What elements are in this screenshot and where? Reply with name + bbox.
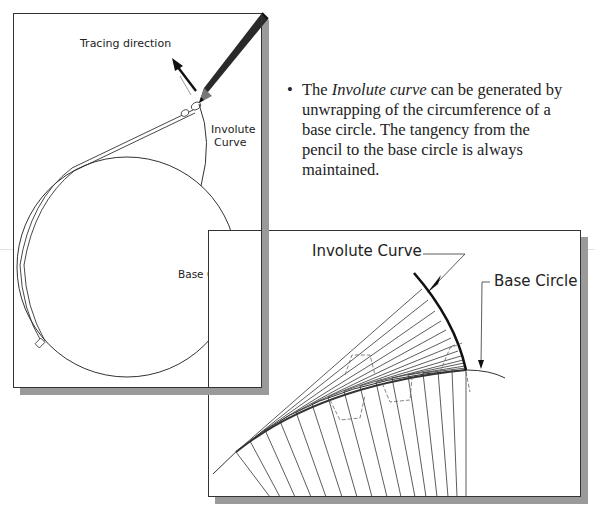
base-circle-leader-line [481,282,490,366]
involute-leader-line [423,254,465,287]
involute-curve-label: Involute Curve [312,242,422,260]
right-figure-drawing [0,0,595,511]
base-circle-label-right: Base Circle [494,272,577,290]
